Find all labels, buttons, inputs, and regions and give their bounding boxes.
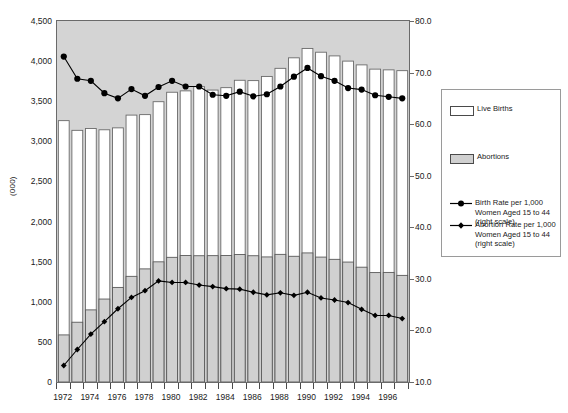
birth-rate-line-marker xyxy=(331,78,337,84)
birth-rate-line-marker xyxy=(169,78,175,84)
y-axis-right-tickmark xyxy=(410,176,414,177)
legend-label-abortions: Abortions xyxy=(477,152,509,162)
x-axis-tickmark xyxy=(151,383,152,389)
x-axis-tickmark xyxy=(259,383,260,389)
birth-rate-line-marker xyxy=(277,83,283,89)
x-axis-tick-label: 1974 xyxy=(80,392,99,402)
x-axis-tickmark xyxy=(178,383,179,389)
abortions-bar xyxy=(370,273,381,382)
birth-rate-line-marker xyxy=(264,91,270,97)
abortions-bar xyxy=(316,257,327,382)
birth-rate-line-marker xyxy=(291,74,297,80)
y-axis-right-tickmark xyxy=(410,227,414,228)
y-axis-left-tick: 4,000 xyxy=(0,56,56,66)
y-axis-left-tick: 1,500 xyxy=(0,257,56,267)
abortions-bar xyxy=(113,287,124,382)
legend-swatch-abortions xyxy=(450,154,474,164)
abortions-bar xyxy=(356,267,367,382)
birth-rate-line-marker xyxy=(210,92,216,98)
abortions-bar xyxy=(343,262,354,382)
x-axis-tickmark xyxy=(273,383,274,389)
abortions-bar xyxy=(248,256,259,382)
y-axis-left-tick: 2,000 xyxy=(0,217,56,227)
abortions-bar xyxy=(275,254,286,382)
birth-rate-line-marker xyxy=(359,86,365,92)
x-axis-tickmark xyxy=(205,383,206,389)
legend-line-birth-rate xyxy=(450,199,472,208)
birth-rate-line-marker xyxy=(142,93,148,99)
legend-label-live-births: Live Births xyxy=(477,104,512,114)
birth-rate-line-marker xyxy=(318,73,324,79)
legend-label-abortion-rate: Abortion Rate per 1,000 Women Aged 15 to… xyxy=(475,220,556,249)
legend-item-live-births: Live Births xyxy=(450,104,512,116)
birth-rate-line-marker xyxy=(386,94,392,100)
x-axis-tickmark xyxy=(408,383,409,389)
live-births-bars xyxy=(58,48,407,382)
x-axis-tickmark xyxy=(124,383,125,389)
chart-figure: (000) 05001,0001,5002,0002,5003,0003,500… xyxy=(0,0,568,413)
abortions-bars xyxy=(58,253,407,382)
x-axis-tickmark xyxy=(367,383,368,389)
birth-rate-line-marker xyxy=(61,53,67,59)
legend-item-abortion-rate: Abortion Rate per 1,000 Women Aged 15 to… xyxy=(450,220,556,249)
birth-rate-line-marker xyxy=(237,89,243,95)
chart-legend: Live BirthsAbortionsBirth Rate per 1,000… xyxy=(441,89,561,257)
chart-canvas xyxy=(57,21,409,382)
birth-rate-line-marker xyxy=(115,95,121,101)
x-axis-tickmark xyxy=(56,383,57,389)
abortions-bar xyxy=(167,257,178,382)
birth-rate-line-marker xyxy=(74,76,80,82)
y-axis-right-tickmark xyxy=(410,382,414,383)
x-axis-tickmark xyxy=(70,383,71,389)
y-axis-right-tickmark xyxy=(410,279,414,280)
birth-rate-line-marker xyxy=(183,83,189,89)
y-axis-left-tick: 2,500 xyxy=(0,176,56,186)
birth-rate-line-marker xyxy=(304,65,310,71)
x-axis-tick-label: 1986 xyxy=(243,392,262,402)
abortions-bar xyxy=(207,256,218,382)
x-axis-tick-label: 1976 xyxy=(107,392,126,402)
y-axis-left-tick: 3,500 xyxy=(0,96,56,106)
birth-rate-line-marker xyxy=(101,90,107,96)
abortions-bar xyxy=(194,256,205,382)
x-axis-tick-label: 1992 xyxy=(324,392,343,402)
abortions-bar xyxy=(140,269,151,382)
abortions-bar xyxy=(289,256,300,382)
legend-line-abortion-rate xyxy=(450,221,472,230)
x-axis-tickmark xyxy=(354,383,355,389)
x-axis-tick-label: 1982 xyxy=(189,392,208,402)
x-axis-tickmark xyxy=(300,383,301,389)
x-axis-tickmark xyxy=(340,383,341,389)
legend-item-abortions: Abortions xyxy=(450,152,509,164)
x-axis-tickmark xyxy=(83,383,84,389)
x-axis-tick-label: 1994 xyxy=(351,392,370,402)
x-axis-tickmark xyxy=(97,383,98,389)
x-axis-tick-label: 1972 xyxy=(53,392,72,402)
abortions-bar xyxy=(383,272,394,382)
abortions-bar xyxy=(261,257,272,382)
birth-rate-line-marker xyxy=(223,93,229,99)
x-axis-tick-label: 1980 xyxy=(162,392,181,402)
abortions-bar xyxy=(302,253,313,382)
y-axis-right-tickmark xyxy=(410,124,414,125)
birth-rate-line-marker xyxy=(196,83,202,89)
y-axis-left-tick: 0 xyxy=(0,377,56,387)
abortions-bar xyxy=(329,259,340,382)
y-axis-left-tick: 4,500 xyxy=(0,16,56,26)
y-axis-left-tick: 1,000 xyxy=(0,297,56,307)
x-axis-tickmark xyxy=(394,383,395,389)
x-axis-tick-label: 1978 xyxy=(135,392,154,402)
x-axis-tickmark xyxy=(191,383,192,389)
birth-rate-line-marker xyxy=(372,92,378,98)
x-axis-tickmark xyxy=(218,383,219,389)
abortions-bar xyxy=(99,299,110,382)
x-axis-tick-label: 1988 xyxy=(270,392,289,402)
y-axis-left-tick: 3,000 xyxy=(0,136,56,146)
birth-rate-line-marker xyxy=(155,84,161,90)
x-axis-tickmark xyxy=(232,383,233,389)
y-axis-left: 05001,0001,5002,0002,5003,0003,5004,0004… xyxy=(0,0,56,413)
abortions-bar xyxy=(58,335,69,382)
x-axis-labels: 1972197419761978198019821984198619881990… xyxy=(56,390,410,406)
x-axis-tickmark xyxy=(164,383,165,389)
abortions-bar xyxy=(234,255,245,382)
